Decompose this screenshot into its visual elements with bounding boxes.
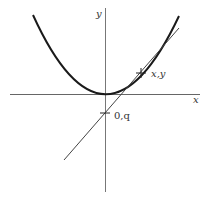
y-axis-label: y: [95, 8, 102, 19]
diagram-canvas: y x x,y 0,q: [0, 0, 211, 198]
intercept-label: 0,q: [114, 110, 131, 121]
tangent-point-label: x,y: [151, 68, 166, 79]
x-axis-label: x: [193, 94, 199, 105]
